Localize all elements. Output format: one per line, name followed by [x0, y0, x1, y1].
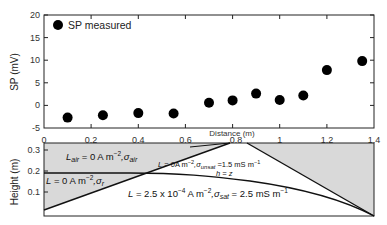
legend-label: SP measured	[68, 19, 132, 31]
data-point	[251, 89, 261, 99]
data-point	[133, 108, 143, 118]
cross-section-diagram: 0.3 0.2 0.1 Height (m) Lair = 0 A m−2,σa…	[9, 143, 374, 216]
left-annotation: L = 0 A m−2,σr	[46, 174, 105, 187]
sp-x-ticks	[91, 15, 327, 128]
sp-ytick-5: 5	[35, 78, 40, 88]
sp-y-label: SP (mV)	[9, 53, 20, 91]
diag-ytick-0.2: 0.2	[27, 166, 40, 176]
data-point	[322, 65, 332, 75]
sp-data-points	[63, 56, 368, 123]
data-point	[204, 98, 214, 108]
data-point	[98, 110, 108, 120]
unsat-annotation: L = 0A m−2,σunsat =1.5 mS m−1	[158, 159, 260, 170]
sp-ytick-10: 10	[30, 55, 40, 65]
diag-ytick-0.1: 0.1	[27, 187, 40, 197]
sp-plot: 20 15 10 5 0 -5 SP (mV) Distance (m) 0 0…	[9, 10, 380, 145]
data-point	[298, 91, 308, 101]
sat-annotation: L = 2.5 x 10−4 A m−2,σsat = 2.5 mS m−1	[128, 187, 288, 200]
data-point	[169, 109, 179, 119]
sp-ytick-minus5: -5	[32, 123, 40, 133]
data-point	[63, 113, 73, 123]
diag-ytick-0.3: 0.3	[27, 145, 40, 155]
legend-marker-icon	[53, 20, 63, 30]
sp-ytick-15: 15	[30, 33, 40, 43]
diagram-y-label: Height (m)	[9, 159, 20, 206]
figure: 20 15 10 5 0 -5 SP (mV) Distance (m) 0 0…	[0, 0, 387, 225]
data-point	[228, 95, 238, 105]
data-point	[275, 95, 285, 105]
data-point	[357, 56, 367, 66]
sp-ytick-0: 0	[35, 100, 40, 110]
water-table-label: h = z	[216, 169, 233, 178]
sp-ytick-20: 20	[30, 10, 40, 20]
